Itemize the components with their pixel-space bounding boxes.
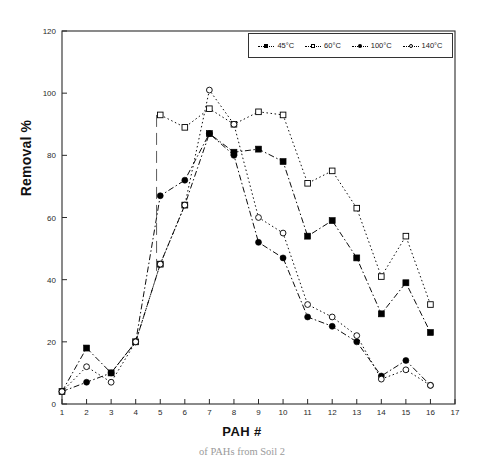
data-point-filled-circle: [84, 379, 90, 385]
filled-square-icon: [258, 41, 274, 50]
x-tick-label: 3: [109, 408, 113, 417]
legend-entry: 140°C: [403, 41, 443, 50]
y-tick-label: 80: [30, 151, 56, 160]
data-point-filled-square: [280, 159, 286, 165]
x-tick-label: 12: [328, 408, 337, 417]
figure-container: Removal % PAH # of PAHs from Soil 2 45°C…: [0, 0, 484, 458]
open-square-icon: [305, 41, 321, 50]
data-point-filled-square: [354, 255, 360, 261]
series-line: [62, 134, 430, 392]
data-point-open-square: [280, 112, 286, 118]
legend-entry: 60°C: [305, 41, 341, 50]
data-point-open-circle: [378, 376, 384, 382]
data-point-filled-circle: [403, 357, 409, 363]
data-point-open-square: [207, 106, 213, 112]
data-point-filled-circle: [206, 131, 212, 137]
x-tick-label: 13: [352, 408, 361, 417]
series-line: [160, 109, 430, 305]
legend-entry: 45°C: [258, 41, 294, 50]
data-point-open-square: [157, 112, 163, 118]
data-point-filled-square: [305, 233, 311, 239]
data-point-filled-circle: [329, 323, 335, 329]
data-point-filled-circle: [305, 314, 311, 320]
data-point-open-square: [379, 274, 385, 280]
legend-label: 60°C: [324, 41, 341, 50]
data-point-filled-circle: [231, 152, 237, 158]
x-tick-label: 2: [84, 408, 88, 417]
data-point-open-square: [305, 181, 311, 187]
data-point-filled-square: [256, 146, 262, 152]
y-tick-label: 60: [30, 213, 56, 222]
data-point-open-circle: [59, 389, 65, 395]
data-point-open-circle: [305, 302, 311, 308]
data-point-open-circle: [157, 261, 163, 267]
series-line: [62, 90, 430, 392]
data-point-filled-square: [427, 330, 433, 336]
data-point-open-square: [428, 302, 434, 308]
legend-label: 100°C: [371, 41, 392, 50]
x-tick-label: 14: [377, 408, 386, 417]
data-point-filled-circle: [354, 339, 360, 345]
y-tick-label: 120: [30, 27, 56, 36]
data-point-filled-square: [378, 311, 384, 317]
data-point-filled-square: [403, 280, 409, 286]
data-point-open-circle: [256, 215, 262, 221]
data-point-open-circle: [84, 364, 90, 370]
data-point-open-circle: [403, 367, 409, 373]
data-point-filled-square: [329, 218, 335, 224]
data-point-open-circle: [231, 121, 237, 127]
data-point-open-circle: [428, 382, 434, 388]
chart-legend: 45°C60°C100°C140°C: [248, 33, 453, 58]
x-tick-label: 9: [256, 408, 260, 417]
x-tick-label: 5: [158, 408, 162, 417]
data-point-open-circle: [329, 314, 335, 320]
x-tick-label: 15: [401, 408, 410, 417]
data-point-open-square: [182, 125, 188, 131]
data-point-open-square: [403, 233, 409, 239]
series-line: [62, 134, 430, 392]
data-point-open-circle: [206, 87, 212, 93]
legend-label: 45°C: [277, 41, 294, 50]
open-circle-icon: [403, 41, 419, 50]
x-tick-label: 6: [183, 408, 187, 417]
filled-circle-icon: [352, 41, 368, 50]
x-tick-label: 8: [232, 408, 236, 417]
x-tick-label: 11: [303, 408, 311, 417]
data-point-open-square: [329, 168, 335, 174]
legend-entry: 100°C: [352, 41, 392, 50]
data-point-open-square: [256, 109, 262, 115]
x-tick-label: 7: [207, 408, 211, 417]
data-point-filled-circle: [182, 177, 188, 183]
data-point-filled-circle: [256, 239, 262, 245]
x-tick-label: 10: [279, 408, 288, 417]
y-tick-label: 100: [30, 89, 56, 98]
y-tick-label: 20: [30, 337, 56, 346]
data-point-filled-circle: [108, 370, 114, 376]
x-tick-label: 16: [426, 408, 435, 417]
data-point-open-circle: [182, 202, 188, 208]
legend-label: 140°C: [422, 41, 443, 50]
x-tick-label: 4: [133, 408, 137, 417]
data-point-filled-circle: [280, 255, 286, 261]
chart-plot-area: [0, 0, 484, 458]
y-tick-label: 0: [30, 400, 56, 409]
data-point-filled-square: [84, 345, 90, 351]
data-point-open-circle: [280, 230, 286, 236]
data-point-filled-circle: [157, 193, 163, 199]
y-tick-label: 40: [30, 275, 56, 284]
x-tick-label: 1: [60, 408, 64, 417]
data-point-open-circle: [133, 339, 139, 345]
x-tick-label: 17: [451, 408, 460, 417]
data-point-open-square: [354, 205, 360, 211]
data-point-open-circle: [108, 379, 114, 385]
data-point-open-circle: [354, 333, 360, 339]
